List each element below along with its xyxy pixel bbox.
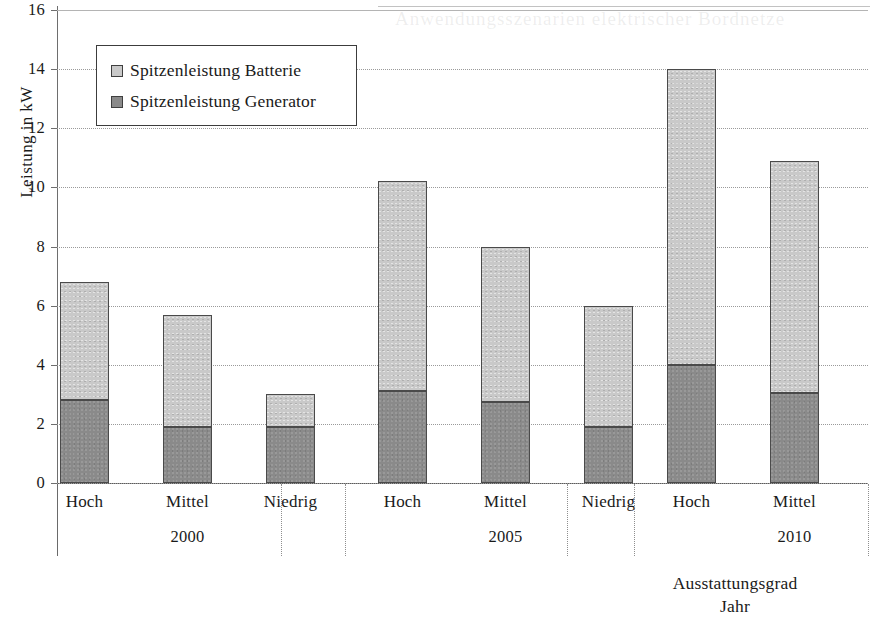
category-label-mittel: Mittel	[773, 492, 816, 512]
category-label-mittel: Mittel	[166, 492, 209, 512]
group-label-2005: 2005	[489, 527, 523, 547]
bar-segment-battery	[667, 69, 716, 365]
bar-segment-generator	[378, 391, 427, 483]
x-axis-title-jahr: Jahr	[620, 595, 850, 618]
bar-segment-generator	[584, 427, 633, 483]
y-axis-tick-label: 8	[37, 237, 45, 257]
group-separator	[634, 484, 635, 556]
x-axis-category-band: HochMittelNiedrig2000HochMittelNiedrig20…	[57, 484, 868, 564]
bar-2000-niedrig	[266, 394, 315, 483]
bar-2010-mittel	[770, 161, 819, 483]
bar-segment-generator	[266, 427, 315, 483]
gridline	[57, 187, 868, 188]
gridline	[57, 10, 868, 11]
legend-entry: Spitzenleistung Generator	[111, 86, 356, 117]
y-axis-tick-label: 6	[37, 296, 45, 316]
group-separator	[281, 484, 282, 556]
group-label-2000: 2000	[171, 527, 205, 547]
bar-2010-hoch	[667, 69, 716, 483]
chart-legend: Spitzenleistung BatterieSpitzenleistung …	[96, 45, 357, 126]
group-label-2010: 2010	[778, 527, 812, 547]
bar-2000-mittel	[163, 315, 212, 484]
category-label-mittel: Mittel	[484, 492, 527, 512]
bar-segment-battery	[584, 306, 633, 427]
bar-segment-battery	[481, 247, 530, 402]
bar-segment-generator	[667, 365, 716, 483]
chart-figure: Anwendungsszenarien elektrischer Bordnet…	[0, 0, 870, 628]
y-axis-tick-label: 0	[37, 473, 45, 493]
legend-entry: Spitzenleistung Batterie	[111, 55, 356, 86]
gridline	[57, 247, 868, 248]
group-separator	[567, 484, 568, 556]
category-label-hoch: Hoch	[673, 492, 711, 512]
legend-label: Spitzenleistung Batterie	[130, 60, 301, 81]
bar-segment-generator	[60, 400, 109, 483]
bar-segment-battery	[60, 282, 109, 400]
bar-segment-battery	[770, 161, 819, 393]
category-label-hoch: Hoch	[66, 492, 104, 512]
group-separator	[868, 484, 869, 556]
bar-segment-battery	[378, 181, 427, 391]
bar-segment-generator	[770, 393, 819, 483]
bar-segment-battery	[266, 394, 315, 427]
bar-2000-hoch	[60, 282, 109, 483]
x-axis-titles: Ausstattungsgrad Jahr	[620, 572, 850, 618]
legend-label: Spitzenleistung Generator	[130, 91, 316, 112]
gridline	[57, 128, 868, 129]
legend-swatch-bat-icon	[111, 65, 123, 77]
legend-swatch-gen-icon	[111, 96, 123, 108]
y-axis-tick-label: 4	[37, 355, 45, 375]
y-axis-tick-label: 2	[37, 414, 45, 434]
bar-segment-generator	[481, 402, 530, 483]
bar-2005-hoch	[378, 181, 427, 483]
bar-segment-generator	[163, 427, 212, 483]
bar-segment-battery	[163, 315, 212, 427]
y-axis-title: Leistung in kW	[17, 42, 37, 242]
bar-2005-mittel	[481, 247, 530, 484]
gridline	[57, 306, 868, 307]
y-axis-tick-label: 16	[28, 0, 45, 20]
bar-2005-niedrig	[584, 306, 633, 483]
group-separator	[57, 484, 58, 556]
page-rule	[378, 6, 870, 7]
category-label-hoch: Hoch	[384, 492, 422, 512]
category-label-niedrig: Niedrig	[582, 492, 635, 512]
category-label-niedrig: Niedrig	[264, 492, 317, 512]
x-axis-title-ausstattungsgrad: Ausstattungsgrad	[620, 572, 850, 595]
group-separator	[345, 484, 346, 556]
